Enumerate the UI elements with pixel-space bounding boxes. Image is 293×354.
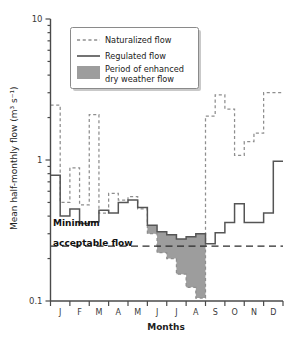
x-tick-label-s-8: S (213, 308, 218, 317)
x-axis-ticks: JFMAMJJASOND (51, 301, 284, 317)
naturalized-flow-line (51, 93, 284, 298)
x-tick-label-a-7: A (193, 308, 199, 317)
y-axis-title-group: Mean half-monthly flow (m³ s⁻¹) (9, 86, 19, 230)
x-tick-label-a-3: A (116, 308, 122, 317)
regulated-flow-line (51, 161, 284, 243)
x-axis: JFMAMJJASOND Months (51, 301, 284, 332)
x-axis-title: Months (147, 322, 185, 332)
x-tick-label-o-9: O (231, 308, 237, 317)
x-tick-label-d-11: D (270, 308, 276, 317)
y-axis-ticks: 1010.1 (29, 14, 51, 306)
minimum-flow-label-line2: acceptable flow (53, 238, 133, 248)
legend-label-enhanced-line2: dry weather flow (105, 74, 174, 84)
chart-figure: 1010.1 JFMAMJJASOND Months Mean half-mon… (0, 0, 293, 354)
legend-label-naturalized: Naturalized flow (105, 35, 172, 45)
x-tick-label-j-6: J (174, 308, 177, 317)
x-tick-label-n-10: N (251, 308, 257, 317)
x-tick-label-j-0: J (58, 308, 61, 317)
x-tick-label-j-5: J (155, 308, 158, 317)
x-tick-label-m-4: M (134, 308, 141, 317)
minimum-acceptable-flow-annotation: Minimum acceptable flow (53, 218, 133, 248)
y-tick-label: 10 (32, 14, 43, 24)
y-axis-title: Mean half-monthly flow (m³ s⁻¹) (9, 86, 19, 230)
legend-label-regulated: Regulated flow (105, 51, 166, 61)
legend-swatch-icon (77, 66, 100, 79)
y-tick-label: 1 (37, 155, 42, 165)
flow-chart-svg: 1010.1 JFMAMJJASOND Months Mean half-mon… (0, 0, 293, 354)
minimum-flow-label-line1: Minimum (53, 218, 100, 228)
x-tick-label-m-2: M (95, 308, 102, 317)
legend: Naturalized flow Regulated flow Period o… (71, 28, 202, 92)
plot-area (51, 93, 284, 298)
y-tick-label: 0.1 (29, 296, 43, 306)
y-axis: 1010.1 (29, 14, 51, 306)
legend-label-enhanced-line1: Period of enhanced (105, 64, 184, 74)
x-tick-label-f-1: F (77, 308, 82, 317)
